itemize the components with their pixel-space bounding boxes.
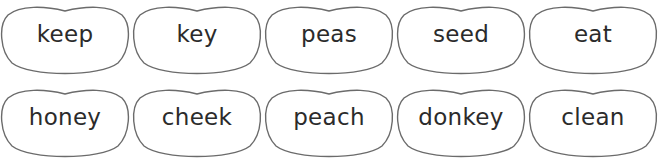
bean-word: key (132, 21, 262, 47)
bean-word: peach (264, 104, 394, 130)
bean-word: eat (528, 21, 658, 47)
word-bean-card: key (132, 3, 262, 75)
bean-word: donkey (396, 104, 526, 130)
word-bean-card: seed (396, 3, 526, 75)
bean-word: seed (396, 21, 526, 47)
word-bean-card: keep (0, 3, 130, 75)
word-bean-card: peas (264, 3, 394, 75)
word-bean-card: peach (264, 86, 394, 158)
word-bean-card: eat (528, 3, 658, 75)
bean-word: peas (264, 21, 394, 47)
word-bean-grid: keep key peas seed eat honey cheek peach… (0, 0, 661, 167)
word-bean-card: donkey (396, 86, 526, 158)
bean-word: clean (528, 104, 658, 130)
word-bean-card: honey (0, 86, 130, 158)
bean-word: cheek (132, 104, 262, 130)
word-bean-card: cheek (132, 86, 262, 158)
bean-word: keep (0, 21, 130, 47)
word-bean-card: clean (528, 86, 658, 158)
bean-word: honey (0, 104, 130, 130)
